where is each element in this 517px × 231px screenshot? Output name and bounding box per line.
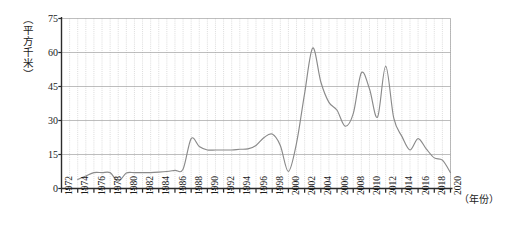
minor-vertical-gridlines (62, 19, 451, 189)
chart-container: （平方千米） 01530456075 197219741976197819801… (0, 0, 517, 231)
x-axis-unit-label: （年份） (459, 195, 499, 205)
data-series-line (78, 48, 451, 181)
plot-area (0, 0, 517, 231)
